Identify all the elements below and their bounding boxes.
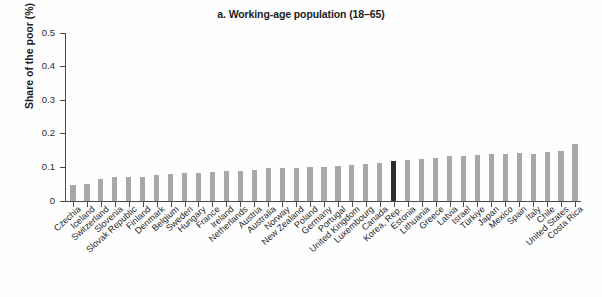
chart-figure: a. Working-age population (18–65) Share … (0, 0, 602, 297)
bar (70, 185, 75, 201)
y-tick-mark (60, 133, 65, 134)
y-tick-mark (60, 100, 65, 101)
x-axis-category-labels: CzechiaIcelandSwitzerlandSloveniaSlovak … (65, 201, 602, 296)
plot-area: 00.10.20.30.40.5 (65, 33, 581, 201)
y-tick-label: 0.4 (27, 60, 55, 71)
y-tick-mark (60, 33, 65, 34)
y-tick-label: 0.5 (27, 27, 55, 38)
y-tick-mark (60, 66, 65, 67)
y-axis-line (65, 33, 66, 201)
y-tick-label: 0 (27, 195, 55, 206)
y-tick-label: 0.1 (27, 161, 55, 172)
y-tick-mark (60, 167, 65, 168)
chart-title: a. Working-age population (18–65) (0, 8, 602, 20)
y-tick-label: 0.2 (27, 127, 55, 138)
y-tick-label: 0.3 (27, 94, 55, 105)
